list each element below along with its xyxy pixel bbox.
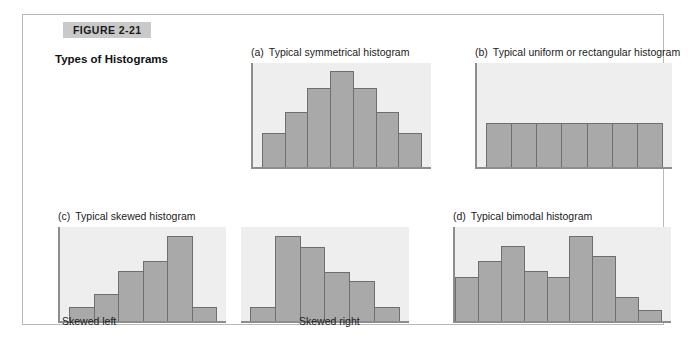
histogram-d <box>453 227 671 323</box>
bar <box>524 271 548 321</box>
bar <box>167 236 193 321</box>
panel-c-key: (c) <box>58 210 70 222</box>
caption-skewed-right: Skewed right <box>299 315 360 327</box>
figure-tag: FIGURE 2-21 <box>63 22 151 38</box>
histogram-a-bars <box>262 63 422 167</box>
caption-skewed-left: Skewed left <box>62 315 116 327</box>
panel-a-symmetrical: (a)Typical symmetrical histogram <box>251 47 431 169</box>
bar <box>330 71 354 167</box>
panel-d-label-text: Typical bimodal histogram <box>471 210 592 222</box>
bar <box>638 310 662 320</box>
bar <box>143 261 169 320</box>
bar <box>569 236 593 321</box>
bar <box>307 88 331 167</box>
bar <box>324 272 350 321</box>
histogram-b <box>475 63 672 169</box>
panel-b-uniform: (b)Typical uniform or rectangular histog… <box>475 47 680 169</box>
bar <box>536 123 562 167</box>
bar <box>592 256 616 321</box>
panel-c-skewed: (c)Typical skewed histogram <box>58 211 226 323</box>
bar <box>587 123 613 167</box>
histogram-a-x-axis <box>253 167 431 169</box>
bar <box>250 307 276 320</box>
histogram-a <box>251 63 431 169</box>
panel-b-label-text: Typical uniform or rectangular histogram <box>493 46 680 58</box>
bar <box>511 123 537 167</box>
histogram-c-skewed-left <box>58 227 226 323</box>
bar <box>455 277 479 320</box>
histogram-c-left-bars <box>69 227 217 321</box>
panel-d-key: (d) <box>453 210 466 222</box>
panel-b-key: (b) <box>475 46 488 58</box>
panel-a-key: (a) <box>251 46 264 58</box>
histogram-c-right-bars <box>250 227 400 321</box>
bar <box>478 261 502 320</box>
bar <box>501 246 525 320</box>
bar <box>561 123 587 167</box>
bar <box>300 247 326 320</box>
bar <box>547 277 571 320</box>
panel-a-label-text: Typical symmetrical histogram <box>269 46 410 58</box>
histogram-d-x-axis <box>455 321 671 323</box>
panel-c-label: (c)Typical skewed histogram <box>58 211 226 223</box>
panel-a-label: (a)Typical symmetrical histogram <box>251 47 431 59</box>
bar <box>637 123 663 167</box>
bar <box>374 307 400 320</box>
panel-b-label: (b)Typical uniform or rectangular histog… <box>475 47 680 59</box>
panel-c-label-text: Typical skewed histogram <box>75 210 195 222</box>
histogram-c-skewed-right <box>241 227 409 323</box>
bar <box>275 236 301 321</box>
histogram-d-bars <box>455 227 662 321</box>
figure-tag-label: FIGURE 2-21 <box>73 25 142 36</box>
bar <box>353 88 377 167</box>
bar <box>192 307 218 320</box>
bar <box>285 112 309 166</box>
bar <box>262 133 286 166</box>
bar <box>398 133 422 166</box>
page-title: Types of Histograms <box>55 53 168 65</box>
figure-frame: FIGURE 2-21 Types of Histograms (a)Typic… <box>22 14 664 325</box>
histogram-b-x-axis <box>477 167 672 169</box>
bar <box>615 297 639 321</box>
histogram-b-bars <box>486 63 663 167</box>
bar <box>376 112 400 166</box>
bar <box>612 123 638 167</box>
panel-c-skewed-right <box>241 211 409 323</box>
panel-d-label: (d)Typical bimodal histogram <box>453 211 671 223</box>
bar <box>118 271 144 321</box>
panel-d-bimodal: (d)Typical bimodal histogram <box>453 211 671 323</box>
bar <box>486 123 512 167</box>
